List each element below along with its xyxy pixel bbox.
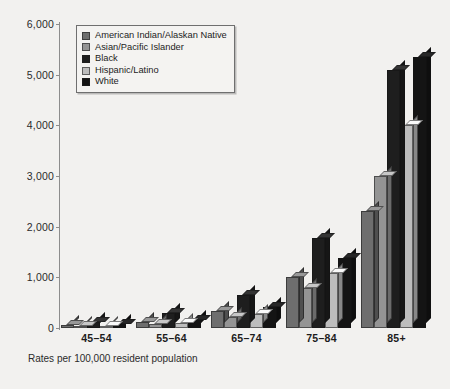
y-axis-labels: 01,0002,0003,0004,0005,0006,000 (0, 0, 54, 389)
bar-side-face (413, 115, 418, 323)
legend-swatch-icon (82, 67, 90, 75)
bar-side-face (325, 228, 330, 323)
legend-swatch-icon (82, 78, 90, 86)
y-axis-tick-mark (56, 227, 60, 228)
bar-american-indian-alaskan-native (61, 325, 74, 328)
bar-american-indian-alaskan-native (136, 322, 149, 328)
bar-front-face (100, 326, 113, 328)
legend-swatch-icon (82, 55, 90, 63)
bar-asian-pacific-islander (149, 324, 162, 328)
bar-side-face (374, 201, 379, 323)
footnote-text: Rates per 100,000 resident population (28, 353, 198, 364)
y-axis-tick-label: 6,000 (6, 18, 54, 30)
legend-swatch-icon (82, 32, 90, 40)
x-axis-group-label: 85+ (352, 332, 442, 344)
bar-side-face (400, 60, 405, 323)
bar-front-face (149, 324, 162, 328)
legend-swatch-icon (82, 43, 90, 51)
y-axis-tick-mark (56, 75, 60, 76)
bar-side-face (351, 248, 356, 323)
legend-item-label: American Indian/Alaskan Native (95, 30, 227, 42)
y-axis-tick-mark (56, 328, 60, 329)
legend-item: Black (82, 53, 227, 65)
legend-item-label: Asian/Pacific Islander (95, 42, 184, 54)
legend-item-label: Black (95, 53, 118, 65)
bar-front-face (361, 211, 374, 328)
bar-front-face (61, 325, 74, 328)
y-axis-tick-mark (56, 24, 60, 25)
legend-item: American Indian/Alaskan Native (82, 30, 227, 42)
legend-item: Hispanic/Latino (82, 65, 227, 77)
bar-front-face (175, 323, 188, 328)
bar-hispanic-latino (100, 326, 113, 328)
y-axis-tick-label: 0 (6, 322, 54, 334)
bar-american-indian-alaskan-native (361, 211, 374, 328)
bar-group: 85+ (361, 24, 426, 328)
y-axis-tick-label: 1,000 (6, 271, 54, 283)
bar-front-face (286, 277, 299, 328)
bar-asian-pacific-islander (74, 326, 87, 328)
bar-front-face (136, 322, 149, 328)
bar-american-indian-alaskan-native (211, 311, 224, 328)
bar-front-face (74, 326, 87, 328)
bar-group: 75–84 (286, 24, 351, 328)
y-axis-tick-mark (56, 277, 60, 278)
legend-item-label: White (95, 76, 119, 88)
y-axis-tick-label: 2,000 (6, 221, 54, 233)
bar-side-face (387, 166, 392, 323)
bar-side-face (276, 297, 281, 323)
y-axis-tick-mark (56, 176, 60, 177)
y-axis-tick-mark (56, 125, 60, 126)
legend-item-label: Hispanic/Latino (95, 65, 159, 77)
y-axis-tick-label: 5,000 (6, 69, 54, 81)
chart-legend: American Indian/Alaskan NativeAsian/Paci… (76, 25, 235, 93)
legend-item: Asian/Pacific Islander (82, 42, 227, 54)
legend-item: White (82, 76, 227, 88)
bar-american-indian-alaskan-native (286, 277, 299, 328)
chart-figure: 01,0002,0003,0004,0005,0006,000 45–5455–… (0, 0, 450, 389)
y-axis-tick-label: 3,000 (6, 170, 54, 182)
bar-front-face (211, 311, 224, 328)
bar-hispanic-latino (175, 323, 188, 328)
bar-side-face (426, 47, 431, 323)
y-axis-tick-label: 4,000 (6, 119, 54, 131)
